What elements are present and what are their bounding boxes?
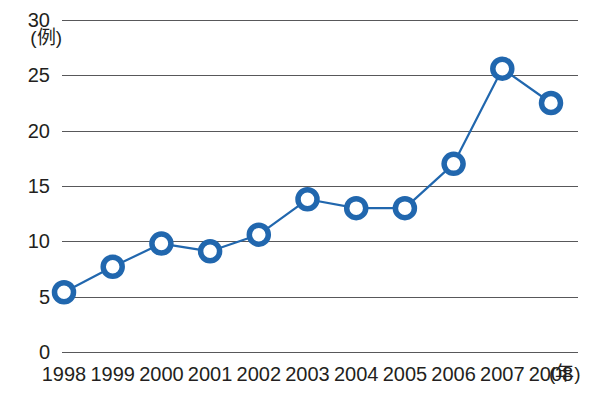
data-point-marker (395, 199, 414, 218)
data-point-marker (152, 234, 171, 253)
data-point-marker (298, 190, 317, 209)
series-line (64, 69, 551, 293)
data-point-marker (493, 59, 512, 78)
data-point-marker (347, 199, 366, 218)
data-point-marker (542, 94, 561, 113)
data-point-marker (103, 257, 122, 276)
x-tick-label: 2008 (511, 362, 591, 386)
line-chart: (例) 051015202530 (年) 1998199920002001200… (0, 0, 592, 404)
series-markers (55, 59, 561, 302)
data-point-marker (444, 154, 463, 173)
data-point-marker (201, 242, 220, 261)
x-axis-tick-labels: (年) 199819992000200120022003200420052006… (0, 362, 592, 390)
data-series-layer (0, 0, 592, 404)
data-point-marker (55, 283, 74, 302)
data-point-marker (249, 225, 268, 244)
